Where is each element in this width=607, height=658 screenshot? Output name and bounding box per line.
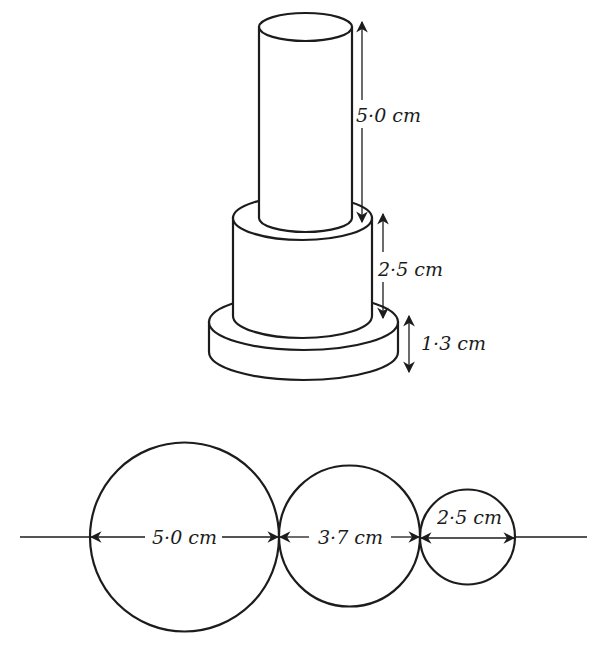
clipped-caption-text: ​ [18,652,607,658]
medium-circle-label: 3·7 cm [318,526,383,548]
circles-diagram: 5·0 cm 3·7 cm 2·5 cm [20,443,587,632]
stacked-cylinders: 5·0 cm 2·5 cm 1·3 cm [209,13,486,380]
large-circle-label: 5·0 cm [152,526,217,548]
diagram-svg: 5·0 cm 2·5 cm 1·3 cm 5·0 cm [0,0,607,658]
top-height-dimension: 5·0 cm [356,22,421,222]
base-height-label: 1·3 cm [421,332,486,354]
top-height-label: 5·0 cm [356,104,421,126]
figure-canvas: 5·0 cm 2·5 cm 1·3 cm 5·0 cm [0,0,607,658]
clipped-caption: ​ [0,652,607,658]
large-circle-dimension: 5·0 cm [91,526,278,548]
middle-height-label: 2·5 cm [377,258,443,280]
medium-circle-dimension: 3·7 cm [280,526,419,548]
top-cylinder [259,13,352,232]
base-height-dimension: 1·3 cm [409,316,486,372]
small-circle [420,490,515,585]
small-circle-dimension: 2·5 cm [421,506,514,538]
middle-height-dimension: 2·5 cm [377,214,443,318]
small-circle-label: 2·5 cm [436,506,502,528]
